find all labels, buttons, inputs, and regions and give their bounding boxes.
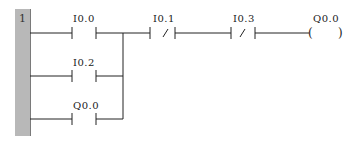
coil-close-paren-icon: ): [338, 26, 343, 40]
coil-open-paren-icon: (: [308, 26, 313, 40]
coil-q0-0-label: Q0.0: [313, 13, 339, 24]
contact-i0-3-label: I0.3: [233, 13, 255, 24]
contact-i0-2-label: I0.2: [73, 57, 95, 68]
contact-i0-1-label: I0.1: [153, 13, 175, 24]
ladder-wiring: [0, 0, 353, 146]
contact-q0-0-label: Q0.0: [73, 100, 99, 111]
contact-i0-0-label: I0.0: [73, 13, 95, 24]
